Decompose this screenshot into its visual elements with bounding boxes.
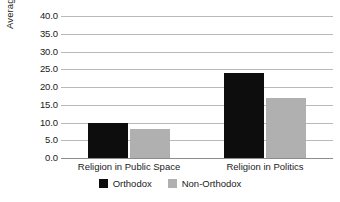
- y-axis-tick-label: 30.0: [24, 47, 58, 57]
- legend-swatch-icon: [99, 179, 108, 188]
- legend-item-non-orthodox[interactable]: Non-Orthodox: [168, 178, 242, 189]
- y-axis-tick-label: 5.0: [24, 135, 58, 145]
- y-axis-tick-label: 15.0: [24, 100, 58, 110]
- x-axis-category-label: Religion in Politics: [197, 161, 333, 172]
- gridline: [61, 158, 333, 159]
- y-axis-tick-label: 35.0: [24, 29, 58, 39]
- gridline: [61, 69, 333, 70]
- bar-chart-figure: Average Score 40.035.030.025.020.015.010…: [0, 0, 340, 202]
- legend-item-orthodox[interactable]: Orthodox: [99, 178, 152, 189]
- plot-area: [61, 16, 333, 158]
- y-axis-tick-label: 0.0: [24, 153, 58, 163]
- y-axis-tick-label: 25.0: [24, 64, 58, 74]
- y-axis-tick-label: 10.0: [24, 118, 58, 128]
- legend-swatch-icon: [168, 179, 177, 188]
- bar-non-orthodox-2: [266, 98, 306, 158]
- gridline: [61, 52, 333, 53]
- gridline: [61, 16, 333, 17]
- y-axis-tick-label: 40.0: [24, 11, 58, 21]
- y-axis-title-label: Average Score: [4, 0, 15, 52]
- bar-orthodox-2: [224, 73, 264, 158]
- gridline: [61, 34, 333, 35]
- legend-label: Non-Orthodox: [182, 178, 242, 189]
- chart-legend: OrthodoxNon-Orthodox: [0, 178, 340, 189]
- gridline: [61, 87, 333, 88]
- y-axis-tick-label: 20.0: [24, 82, 58, 92]
- bar-orthodox-1: [88, 123, 128, 159]
- x-axis-category-label: Religion in Public Space: [61, 161, 197, 172]
- y-axis-title: Average Score: [4, 0, 18, 52]
- legend-label: Orthodox: [113, 178, 152, 189]
- bar-non-orthodox-1: [130, 129, 170, 158]
